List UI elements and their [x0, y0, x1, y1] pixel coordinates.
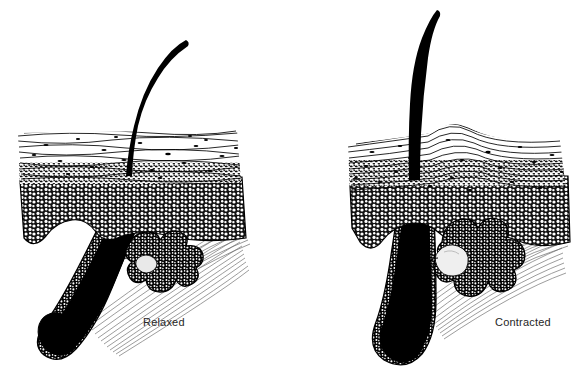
skin-follicle-diagram: Relaxed: [0, 0, 580, 373]
panel-label-relaxed: Relaxed: [143, 316, 185, 328]
figure-canvas: Relaxed: [0, 0, 580, 373]
panel-label-contracted: Contracted: [495, 316, 551, 328]
